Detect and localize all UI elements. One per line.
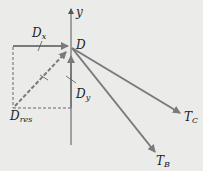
t-b-label-base: T — [156, 154, 164, 168]
free-body-diagram — [0, 0, 203, 171]
t-b-label-sub: B — [164, 160, 170, 169]
t-c-label-base: T — [184, 110, 192, 124]
t-c-label-sub: C — [192, 116, 198, 125]
d-x-label-base: D — [32, 26, 42, 40]
vector-d-res — [15, 52, 66, 106]
y-axis-label: y — [76, 6, 83, 18]
d-res-label-base: D — [10, 109, 20, 123]
t-b-label: TB — [156, 155, 170, 167]
d-res-label: Dres — [10, 110, 32, 122]
point-d-label: D — [76, 39, 86, 51]
d-x-label-sub: x — [42, 32, 47, 41]
d-res-label-sub: res — [20, 115, 33, 124]
d-y-label-base: D — [76, 87, 86, 101]
d-y-label-sub: y — [86, 93, 91, 102]
d-x-label: Dx — [32, 27, 46, 39]
d-y-label: Dy — [76, 88, 90, 100]
vector-t-c — [72, 48, 180, 113]
t-c-label: TC — [184, 111, 198, 123]
